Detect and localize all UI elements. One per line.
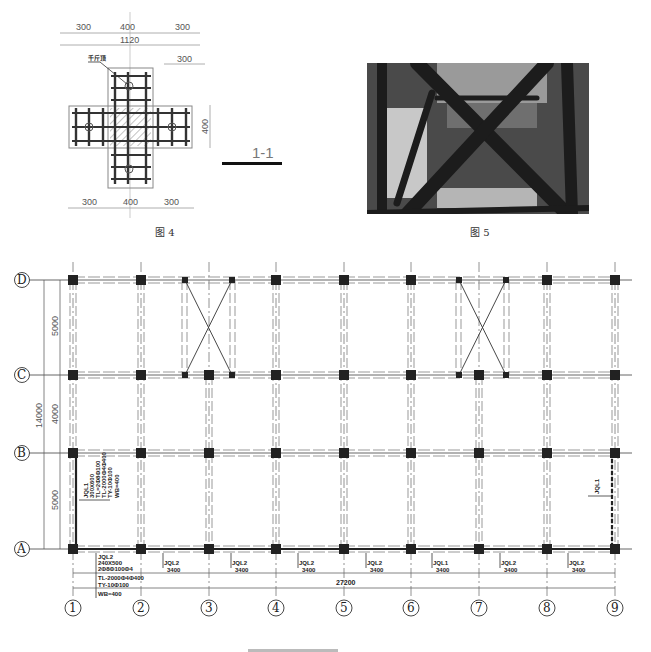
fig4-right-top-dim: 300 xyxy=(177,54,192,64)
svg-text:TY-10Φ100: TY-10Φ100 xyxy=(107,466,113,498)
bay-tag: JQL1 xyxy=(433,560,449,566)
fig4-top-dim-1: 300 xyxy=(76,22,91,32)
section-mark-bar xyxy=(222,162,282,165)
bay-span: 3400 xyxy=(370,567,384,573)
bay-tag: JQL2 xyxy=(569,560,585,566)
section-label: 1-1 xyxy=(252,144,274,161)
bay-span: 3400 xyxy=(436,567,450,573)
fig4-right-side-dim: 400 xyxy=(200,119,210,134)
fig4-leader-label: 千斤顶 xyxy=(88,54,106,62)
axis-col-5: 5 xyxy=(340,601,348,615)
axis-row-c: C xyxy=(17,368,26,382)
figure4-section-drawing xyxy=(60,12,282,218)
fig4-bottom-dim-1: 300 xyxy=(82,197,97,207)
bay-tag: JQL2 xyxy=(232,560,248,566)
axis-col-6: 6 xyxy=(407,601,415,615)
bay-tag: JQL2 xyxy=(367,560,383,566)
bay-span: 3400 xyxy=(167,567,181,573)
fig4-top-dim-3: 300 xyxy=(175,22,190,32)
bay-span: 3400 xyxy=(504,567,518,573)
beam-note-a: JQL2 240X500 2Φ8Φ100Φ4 TL-2000Φ4Φ400 TY-… xyxy=(98,554,145,597)
bay-tag: JQL2 xyxy=(501,560,517,566)
svg-text:TY-10Φ100: TY-10Φ100 xyxy=(98,582,130,588)
axis-row-d: D xyxy=(17,273,27,287)
figure5-photo xyxy=(367,63,589,214)
bay-span: 3400 xyxy=(302,567,316,573)
axis-col-1: 1 xyxy=(69,601,77,615)
figure5-caption: 图 5 xyxy=(470,227,490,238)
bay-span: 3400 xyxy=(572,567,586,573)
svg-text:TL-2000Φ4Φ400: TL-2000Φ4Φ400 xyxy=(98,575,145,581)
bay-tag: JQL2 xyxy=(299,560,315,566)
fig4-bottom-dim-2: 400 xyxy=(123,197,138,207)
dim-c-b: 4000 xyxy=(50,404,60,424)
svg-text:WB=400: WB=400 xyxy=(98,591,122,597)
axis-col-9: 9 xyxy=(611,601,619,615)
fig4-overall-dim: 1120 xyxy=(120,35,139,45)
axis-row-b: B xyxy=(17,446,26,460)
axis-col-8: 8 xyxy=(543,601,551,615)
dim-d-c: 5000 xyxy=(50,316,60,336)
bay-tag: JQL2 xyxy=(164,560,180,566)
shoring-photo-illustration xyxy=(367,63,589,214)
dim-b-a: 5000 xyxy=(50,490,60,510)
figure4-caption: 图 4 xyxy=(155,227,175,238)
svg-text:2Φ8Φ100Φ4: 2Φ8Φ100Φ4 xyxy=(98,566,133,572)
beam-note-b: JQL1 300X600 TL=2Φ8Φ100 TL-2000Φ4Φ400 TY… xyxy=(83,451,120,498)
axis-col-4: 4 xyxy=(272,601,280,615)
svg-text:WB=400: WB=400 xyxy=(114,474,120,498)
axis-col-3: 3 xyxy=(205,601,213,615)
fig4-bottom-dim-3: 300 xyxy=(164,197,179,207)
fig4-top-dim-2: 400 xyxy=(120,22,135,32)
axis-col-7: 7 xyxy=(475,601,483,615)
dim-overall-horizontal: 27200 xyxy=(336,579,356,586)
dim-overall-vertical: 14000 xyxy=(34,403,44,428)
axis-row-a: A xyxy=(16,542,26,556)
axis-col-2: 2 xyxy=(137,601,145,615)
bay-span: 3400 xyxy=(235,567,249,573)
right-beam-note: JQL1 xyxy=(594,478,600,494)
